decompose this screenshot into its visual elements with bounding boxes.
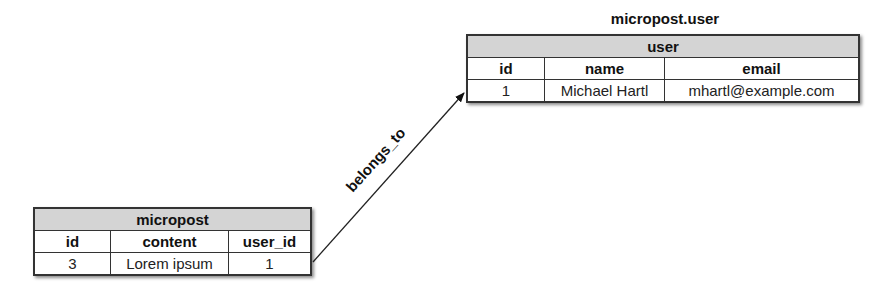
belongs-to-arrow (0, 0, 889, 301)
